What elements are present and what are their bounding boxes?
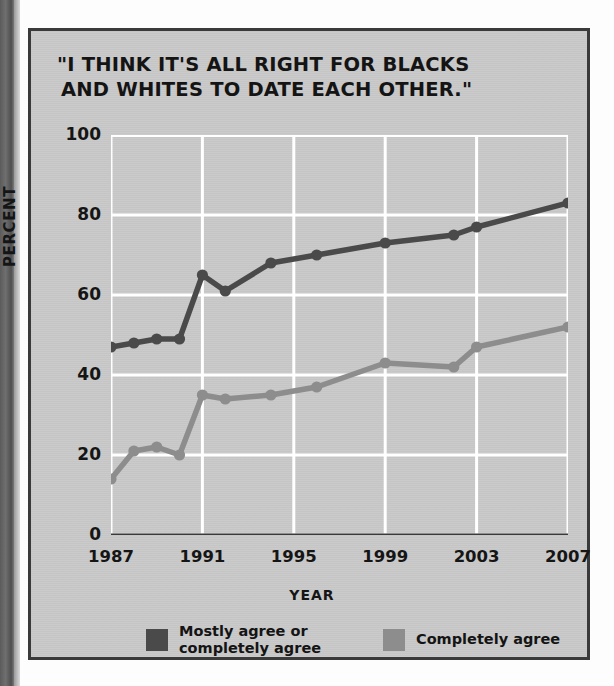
data-point xyxy=(265,389,276,400)
plot-svg xyxy=(111,135,568,535)
x-tick-label: 2007 xyxy=(533,547,603,566)
y-tick-label: 20 xyxy=(55,444,101,464)
legend-swatch-dark xyxy=(146,629,168,651)
data-point xyxy=(448,229,459,240)
legend-label-1: Mostly agree or completely agree xyxy=(179,623,321,658)
data-point xyxy=(197,389,208,400)
data-point xyxy=(471,221,482,232)
legend-item-completely-agree[interactable]: Completely agree xyxy=(383,629,560,651)
x-tick-label: 2003 xyxy=(442,547,512,566)
chart-legend: Mostly agree or completely agree Complet… xyxy=(31,623,593,669)
y-tick-label: 40 xyxy=(55,364,101,384)
y-axis-title: PERCENT xyxy=(1,186,19,267)
data-point xyxy=(151,441,162,452)
series-layer xyxy=(111,197,568,484)
title-line-1: "I THINK IT'S ALL RIGHT FOR BLACKS xyxy=(57,53,469,76)
data-point xyxy=(220,285,231,296)
x-tick-label: 1995 xyxy=(259,547,329,566)
chart-panel: "I THINK IT'S ALL RIGHT FOR BLACKS AND W… xyxy=(28,28,590,660)
legend-label-1-line-1: Mostly agree or xyxy=(179,623,308,639)
data-point xyxy=(380,357,391,368)
data-point xyxy=(311,249,322,260)
title-line-2: AND WHITES TO DATE EACH OTHER." xyxy=(57,78,557,103)
y-tick-label: 100 xyxy=(55,124,101,144)
plot-area xyxy=(111,135,568,535)
data-point xyxy=(220,393,231,404)
x-tick-label: 1991 xyxy=(167,547,237,566)
data-point xyxy=(151,333,162,344)
data-point xyxy=(265,257,276,268)
data-point xyxy=(174,449,185,460)
data-point xyxy=(562,321,568,332)
y-tick-label: 80 xyxy=(55,204,101,224)
series-line-0 xyxy=(111,203,568,347)
chart-title: "I THINK IT'S ALL RIGHT FOR BLACKS AND W… xyxy=(57,53,557,103)
data-point xyxy=(111,341,117,352)
y-tick-label: 60 xyxy=(55,284,101,304)
data-point xyxy=(380,237,391,248)
x-axis-title: YEAR xyxy=(31,587,593,603)
data-point xyxy=(128,445,139,456)
legend-label-2: Completely agree xyxy=(416,631,560,648)
data-point xyxy=(311,381,322,392)
data-point xyxy=(471,341,482,352)
legend-item-mostly-or-completely-agree[interactable]: Mostly agree or completely agree xyxy=(146,623,321,658)
x-tick-label: 1999 xyxy=(350,547,420,566)
page-gutter-shadow xyxy=(0,0,14,686)
data-point xyxy=(448,361,459,372)
x-tick-label: 1987 xyxy=(76,547,146,566)
legend-label-1-line-2: completely agree xyxy=(179,640,321,656)
legend-swatch-light xyxy=(383,629,405,651)
data-point xyxy=(174,333,185,344)
data-point xyxy=(197,269,208,280)
y-tick-label: 0 xyxy=(55,524,101,544)
data-point xyxy=(128,337,139,348)
